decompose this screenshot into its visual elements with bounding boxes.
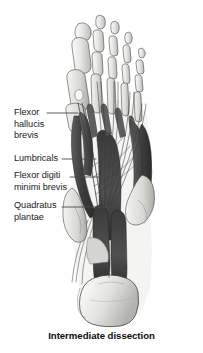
anatomy-figure: Flexor hallucis brevis Lumbricals Flexor… (0, 0, 203, 353)
figure-caption: Intermediate dissection (0, 330, 203, 341)
calcaneus-bone (77, 275, 138, 327)
label-flexor-hallucis-brevis: Flexor hallucis brevis (14, 107, 44, 142)
label-flexor-digiti-minimi-brevis: Flexor digiti minimi brevis (14, 170, 67, 193)
label-lumbricals: Lumbricals (14, 153, 58, 165)
label-quadratus-plantae: Quadratus plantae (14, 200, 56, 223)
